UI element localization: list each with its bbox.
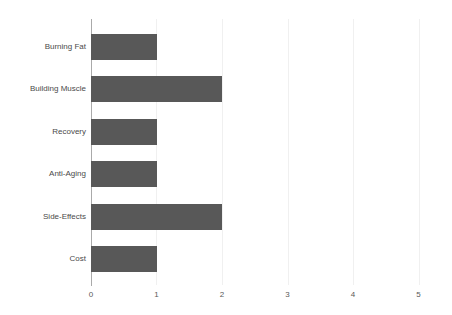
category-label: Recovery xyxy=(0,127,86,137)
bar[interactable] xyxy=(91,34,157,60)
category-label: Side-Effects xyxy=(0,212,86,222)
bar[interactable] xyxy=(91,161,157,187)
x-tick-label: 1 xyxy=(142,290,172,300)
bar-row xyxy=(91,161,419,187)
bar-chart: Burning FatBuilding MuscleRecoveryAnti-A… xyxy=(0,0,452,315)
x-tick-label: 5 xyxy=(404,290,434,300)
category-label: Burning Fat xyxy=(0,42,86,52)
category-label: Building Muscle xyxy=(0,84,86,94)
x-tick-label: 2 xyxy=(207,290,237,300)
bar[interactable] xyxy=(91,76,222,102)
x-tick-label: 3 xyxy=(273,290,303,300)
bar-row xyxy=(91,76,419,102)
category-label: Anti-Aging xyxy=(0,169,86,179)
bar[interactable] xyxy=(91,204,222,230)
bar-row xyxy=(91,204,419,230)
bar-row xyxy=(91,246,419,272)
bar[interactable] xyxy=(91,119,157,145)
bar[interactable] xyxy=(91,246,157,272)
category-label: Cost xyxy=(0,254,86,264)
bar-row xyxy=(91,34,419,60)
bar-row xyxy=(91,119,419,145)
x-tick-label: 4 xyxy=(338,290,368,300)
x-tick-label: 0 xyxy=(76,290,106,300)
gridline-5 xyxy=(419,19,420,285)
